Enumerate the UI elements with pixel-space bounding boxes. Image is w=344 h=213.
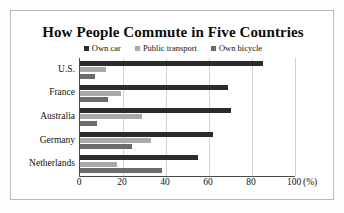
bar-own-car[interactable] bbox=[80, 132, 213, 137]
bar-group bbox=[80, 129, 295, 153]
bar-own-car[interactable] bbox=[80, 155, 198, 160]
bar-own-bicycle[interactable] bbox=[80, 121, 97, 126]
x-tick-label-40: 40 bbox=[160, 178, 170, 188]
bar-own-bicycle[interactable] bbox=[80, 144, 132, 149]
category-label-australia: Australia bbox=[13, 112, 75, 122]
category-axis-labels: U.S.FranceAustraliaGermanyNetherlands bbox=[11, 58, 75, 176]
bar-group bbox=[80, 58, 295, 82]
chart-page: How People Commute in Five Countries Own… bbox=[0, 0, 344, 213]
figure-frame: How People Commute in Five Countries Own… bbox=[10, 10, 334, 200]
category-label-germany: Germany bbox=[13, 136, 75, 146]
x-tick-label-80: 80 bbox=[246, 178, 256, 188]
bar-public-transport[interactable] bbox=[80, 162, 117, 167]
bar-own-bicycle[interactable] bbox=[80, 97, 108, 102]
plot-area bbox=[79, 58, 295, 177]
bar-group bbox=[80, 152, 295, 176]
gridline-100 bbox=[295, 58, 296, 176]
x-tick-label-0: 0 bbox=[77, 178, 82, 188]
x-axis-unit-label: (%) bbox=[303, 178, 317, 188]
x-axis-tick-labels: (%) 020406080100 bbox=[79, 178, 309, 192]
bar-group bbox=[80, 105, 295, 129]
bar-public-transport[interactable] bbox=[80, 91, 121, 96]
bar-public-transport[interactable] bbox=[80, 114, 142, 119]
category-label-u-s: U.S. bbox=[13, 65, 75, 75]
bar-public-transport[interactable] bbox=[80, 67, 106, 72]
bar-own-bicycle[interactable] bbox=[80, 74, 95, 79]
x-tick-label-100: 100 bbox=[287, 178, 301, 188]
bar-own-car[interactable] bbox=[80, 108, 231, 113]
bar-group bbox=[80, 82, 295, 106]
x-tick-label-60: 60 bbox=[203, 178, 213, 188]
category-label-netherlands: Netherlands bbox=[13, 159, 75, 169]
x-tick-label-20: 20 bbox=[117, 178, 127, 188]
bar-own-car[interactable] bbox=[80, 61, 263, 66]
plot-wrapper: U.S.FranceAustraliaGermanyNetherlands (%… bbox=[11, 11, 335, 201]
bar-own-bicycle[interactable] bbox=[80, 168, 162, 173]
bar-public-transport[interactable] bbox=[80, 138, 151, 143]
category-label-france: France bbox=[13, 88, 75, 98]
bar-own-car[interactable] bbox=[80, 85, 228, 90]
